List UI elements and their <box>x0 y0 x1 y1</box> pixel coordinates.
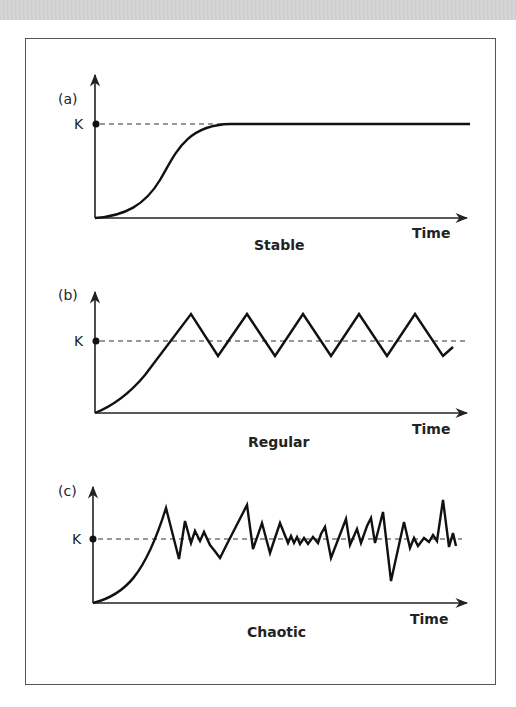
k-marker-dot <box>90 536 97 543</box>
x-axis-label: Time <box>412 421 450 437</box>
k-label: K <box>74 333 84 349</box>
panel-caption: Regular <box>248 434 310 450</box>
population-dynamics-figure: (a) K Time Stable (b) K Time Regular (c)… <box>0 0 516 707</box>
stable-curve <box>95 124 470 218</box>
k-marker-dot <box>93 121 100 128</box>
x-axis-label: Time <box>410 611 448 627</box>
panel-caption: Stable <box>254 237 305 253</box>
regular-oscillation-curve <box>95 314 453 413</box>
panel-c-chaotic: (c) K Time Chaotic <box>58 483 467 640</box>
panel-a-label: (a) <box>58 91 78 107</box>
panel-b-label: (b) <box>58 287 78 303</box>
x-axis-label: Time <box>412 225 450 241</box>
k-marker-dot <box>93 338 100 345</box>
panel-b-regular: (b) K Time Regular <box>58 287 467 450</box>
k-label: K <box>72 531 82 547</box>
panel-c-label: (c) <box>58 483 77 499</box>
chaotic-fluctuation-curve <box>93 500 456 603</box>
panel-a-stable: (a) K Time Stable <box>58 75 470 253</box>
panel-caption: Chaotic <box>247 624 306 640</box>
k-label: K <box>74 116 84 132</box>
